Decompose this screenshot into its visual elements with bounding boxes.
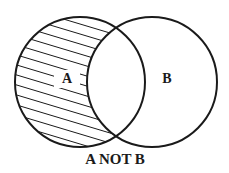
diagram-caption: A NOT B [85, 151, 145, 167]
venn-diagram: A B A NOT B [0, 0, 229, 173]
set-label-b: B [162, 71, 171, 86]
set-label-a: A [62, 71, 73, 86]
